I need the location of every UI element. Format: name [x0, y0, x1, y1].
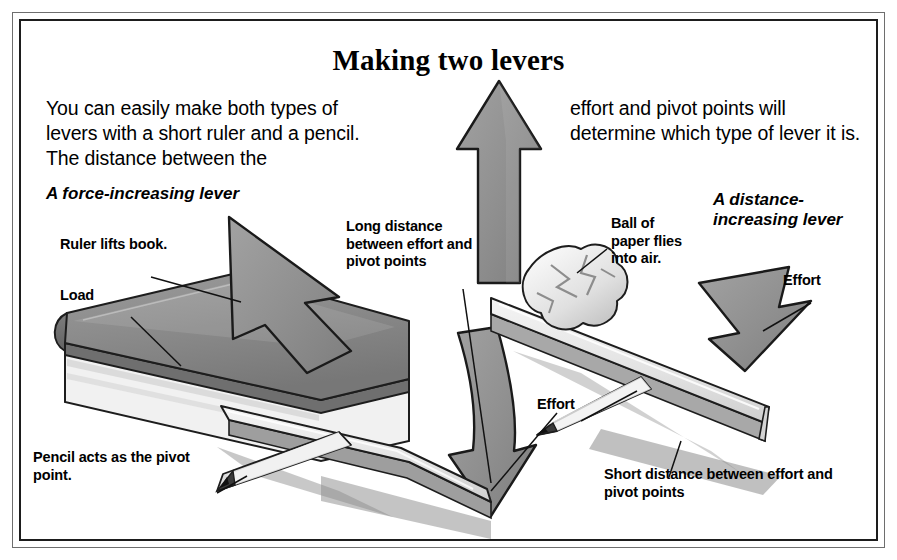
annotation-pencil-pivot-point: Pencil acts as the pivot point. [33, 449, 218, 484]
annotation-ball-of-paper: Ball of paper flies into air. [611, 215, 686, 268]
annotation-long-distance: Long distance between effort and pivot p… [346, 218, 486, 271]
page-title: Making two levers [0, 44, 897, 77]
figure-page: Making two levers You can easily make bo… [0, 0, 897, 560]
annotation-effort-left: Effort [537, 396, 627, 414]
annotation-short-distance: Short distance between effort and pivot … [604, 466, 839, 501]
intro-paragraph-right: effort and pivot points will determine w… [570, 96, 870, 146]
lever-label-force-increasing: A force-increasing lever [46, 184, 366, 204]
intro-paragraph-left: You can easily make both types of levers… [46, 96, 376, 171]
annotation-load: Load [60, 287, 140, 305]
annotation-effort-right: Effort [783, 272, 873, 290]
annotation-ruler-lifts-book: Ruler lifts book. [60, 236, 180, 254]
lever-label-distance-increasing: A distance-increasing lever [713, 190, 863, 230]
